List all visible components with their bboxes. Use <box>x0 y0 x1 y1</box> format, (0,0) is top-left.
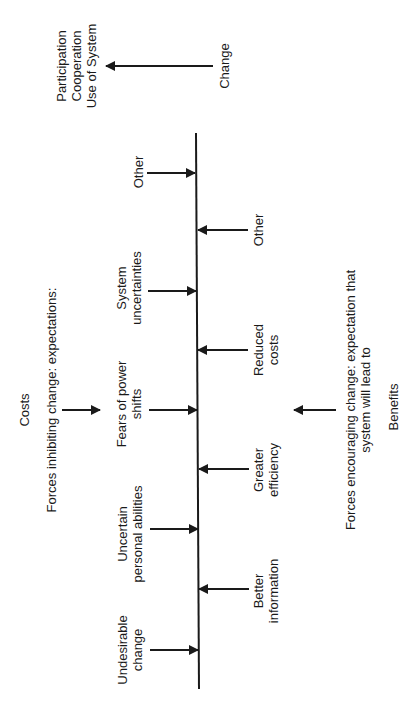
restraining-force-fears-power-shifts: Fears of power shifts <box>114 361 144 448</box>
outcome-label: Participation Cooperation Use of System <box>54 24 99 109</box>
driving-force-reduced-costs: Reduced costs <box>251 324 281 376</box>
change-label: Change <box>217 43 232 89</box>
driving-title: Forces encouraging change: expectation t… <box>343 270 373 530</box>
restraining-force-uncertain-abilities: Uncertain personal abilities <box>115 486 145 583</box>
restraining-force-other: Other <box>131 156 146 189</box>
benefits-footer: Benefits <box>386 384 401 431</box>
restraining-force-undesirable-change: Undesirable change <box>115 615 145 684</box>
driving-force-other: Other <box>251 214 266 247</box>
driving-force-greater-efficiency: Greater efficiency <box>251 443 281 497</box>
driving-force-better-information: Better information <box>251 559 281 623</box>
costs-header: Costs <box>17 393 32 426</box>
restraining-force-system-uncertainties: System uncertainties <box>114 251 144 325</box>
restraining-title: Forces inhibiting change: expectations: <box>44 288 59 513</box>
